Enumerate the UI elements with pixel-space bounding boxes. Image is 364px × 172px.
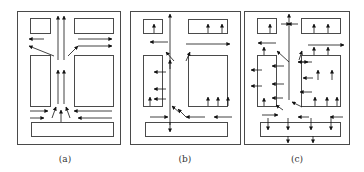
region-box xyxy=(302,56,341,107)
region-box xyxy=(31,56,51,107)
panel-label-b: (b) xyxy=(179,154,192,164)
panel-label-c: (c) xyxy=(291,154,303,164)
panel-b xyxy=(131,12,241,145)
region-box xyxy=(31,19,51,34)
region-box xyxy=(144,20,163,34)
panel-label-a: (a) xyxy=(59,154,71,164)
region-box xyxy=(258,19,277,34)
region-box xyxy=(261,123,341,137)
panel-a xyxy=(18,12,121,145)
diagram-canvas xyxy=(0,0,364,172)
panel-c xyxy=(245,12,350,145)
region-box xyxy=(32,123,114,137)
diagram-figure: (a)(b)(c) xyxy=(0,0,364,172)
region-box xyxy=(75,19,114,34)
region-box xyxy=(75,56,114,107)
region-box xyxy=(146,123,228,137)
region-box xyxy=(258,56,277,107)
region-box xyxy=(302,19,341,34)
